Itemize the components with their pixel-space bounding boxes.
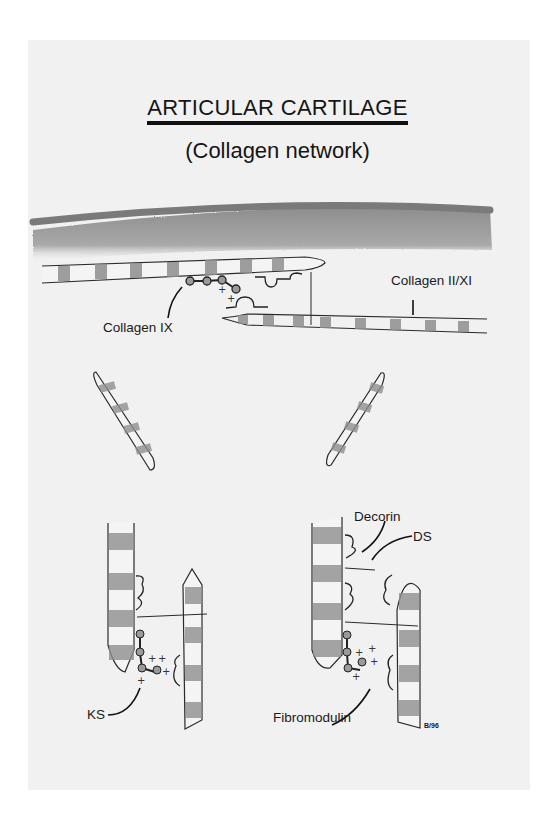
arrow-collagen-ix	[168, 287, 182, 318]
arrow-ks	[108, 688, 140, 715]
label-collagen-ii-xi: Collagen II/XI	[391, 273, 472, 288]
label-fibromodulin: Fibromodulin	[273, 710, 351, 725]
svg-text:+: +	[137, 675, 145, 686]
articular-surface	[33, 206, 492, 262]
svg-text:+: +	[368, 643, 376, 654]
svg-text:+: +	[352, 671, 360, 682]
arrow-decorin	[362, 521, 385, 552]
fibril-pair-left: ++ ++	[108, 523, 207, 729]
label-ks: KS	[87, 707, 105, 722]
svg-text:+: +	[370, 656, 378, 667]
svg-text:+: +	[158, 653, 166, 664]
collagen-network-diagram: + +	[0, 0, 555, 817]
collagen-ix-molecule-top	[186, 273, 302, 308]
svg-text:+: +	[227, 293, 235, 304]
svg-text:+: +	[148, 653, 156, 664]
label-decorin: Decorin	[354, 509, 401, 524]
svg-text:+: +	[162, 666, 170, 677]
arrow-ds	[372, 536, 412, 560]
label-ds: DS	[413, 529, 432, 544]
artist-signature: B/96	[424, 722, 439, 729]
label-collagen-ix: Collagen IX	[103, 320, 173, 335]
svg-text:+: +	[355, 647, 363, 658]
collagen-fibril-diagonal-left	[94, 372, 155, 470]
collagen-fibril-diagonal-right	[327, 373, 385, 466]
svg-text:+: +	[218, 284, 226, 295]
